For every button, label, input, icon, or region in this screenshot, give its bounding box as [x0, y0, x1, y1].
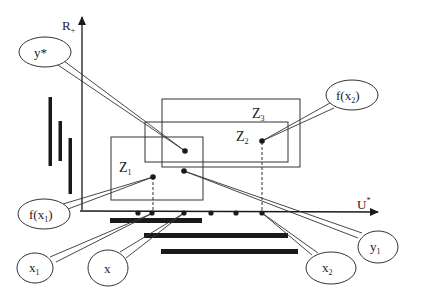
svg-text:x: x [104, 261, 111, 276]
axis-point-x1 [149, 210, 154, 215]
axis-point-5 [233, 210, 238, 215]
horizontal-axis-u-star [80, 211, 378, 212]
axis-point-x [181, 210, 186, 215]
point-f-x2 [259, 138, 265, 144]
zone-z1-label: Z1 [119, 160, 132, 177]
callout-y-star: y* [19, 37, 71, 67]
vertical-bar-2 [59, 121, 63, 161]
horizontal-bar-1 [110, 218, 202, 223]
svg-text:f(x2): f(x2) [336, 88, 360, 105]
diagram-canvas: R+ U* Z3 Z2 Z1 [0, 0, 423, 297]
axis-point-4 [208, 210, 213, 215]
zone-z2-label: Z2 [236, 129, 249, 146]
vertical-bar-3 [69, 138, 73, 194]
point-y-star [182, 148, 188, 154]
vertical-axis-label: R+ [62, 18, 76, 35]
projection-lines [153, 142, 262, 212]
vertical-bars [49, 97, 73, 194]
svg-text:f(x1): f(x1) [29, 207, 53, 224]
point-f-x1 [150, 174, 156, 180]
horizontal-bar-3 [161, 249, 298, 254]
axis-point-x2 [259, 210, 264, 215]
horizontal-axis-label: U* [357, 196, 370, 212]
callout-x: x [88, 250, 128, 286]
horizontal-bar-2 [144, 233, 288, 238]
zone-z2-rect [145, 122, 288, 162]
svg-text:y*: y* [34, 45, 47, 60]
callout-y1: y1 [358, 231, 398, 263]
point-y1 [181, 168, 187, 174]
vertical-bar-1 [49, 97, 53, 166]
axes: R+ U* [62, 17, 378, 212]
zone-z3-label: Z3 [252, 106, 265, 123]
zones [111, 99, 300, 200]
callout-f-x1: f(x1) [18, 199, 70, 229]
callout-x1: x1 [17, 253, 53, 283]
callout-x2: x2 [306, 252, 356, 284]
axis-point-1 [135, 210, 140, 215]
callout-f-x2: f(x2) [326, 80, 378, 110]
